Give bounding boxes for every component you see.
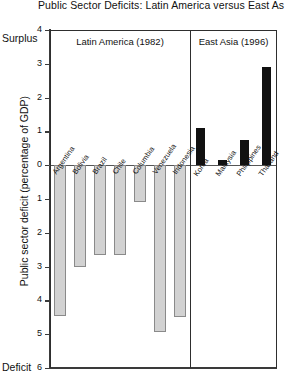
panel-title: East Asia (1996) (190, 36, 277, 47)
y-tick-label: 1 (20, 193, 42, 203)
y-tick-label: 4 (20, 294, 42, 304)
y-tick-label: 5 (20, 328, 42, 338)
bar (94, 165, 106, 255)
y-tick-label: 0 (20, 159, 42, 169)
bar (74, 165, 86, 266)
panel-divider (190, 30, 191, 368)
bar (154, 165, 166, 332)
bar (174, 165, 186, 317)
bar (262, 67, 271, 165)
bar (54, 165, 66, 315)
bar (114, 165, 126, 255)
y-tick-label: 3 (20, 261, 42, 271)
y-tick-label: 1 (20, 125, 42, 135)
y-tick-mark (45, 368, 51, 369)
panel-title: Latin America (1982) (50, 36, 190, 47)
y-tick-label: 3 (20, 58, 42, 68)
y-tick-label: 2 (20, 92, 42, 102)
y-tick-label: 4 (20, 24, 42, 34)
chart-figure: Public Sector Deficits: Latin America ve… (0, 0, 293, 379)
y-tick-label: 2 (20, 227, 42, 237)
y-tick-label: 6 (20, 362, 42, 372)
chart-title: Public Sector Deficits: Latin America ve… (38, 0, 293, 11)
